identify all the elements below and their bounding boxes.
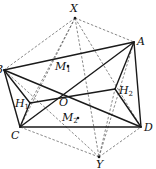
dashed-segment-YB — [4, 70, 99, 157]
label-A: A — [136, 35, 145, 48]
dashed-segment-YA — [99, 42, 134, 157]
label-D: D — [143, 121, 153, 134]
dashed-segment-YC — [20, 127, 99, 157]
point-X — [74, 17, 77, 20]
geometry-diagram: XABCDYOH1H2M1M2 — [0, 0, 156, 169]
dashed-segment-XA — [75, 18, 134, 42]
label-M2: M2 — [61, 111, 78, 125]
segment-H1H2 — [30, 89, 115, 103]
label-C: C — [11, 129, 20, 142]
label-X: X — [69, 2, 79, 15]
label-Y: Y — [96, 158, 105, 169]
label-B: B — [0, 63, 3, 76]
label-O: O — [59, 96, 68, 109]
segment-AD — [134, 42, 141, 127]
dashed-segment-XD — [75, 18, 141, 127]
dashed-segment-XY — [75, 18, 99, 157]
dashed-segment-YH2 — [99, 89, 115, 157]
label-M1: M1 — [54, 60, 71, 74]
label-H2: H2 — [118, 84, 133, 98]
